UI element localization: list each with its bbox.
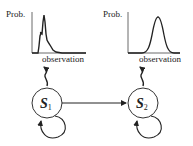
plot2-xlabel: observation — [139, 54, 181, 64]
emission-plot-s1: Prob. observation — [6, 9, 86, 64]
plot1-curve — [32, 15, 86, 53]
plot1-ylabel: Prob. — [6, 9, 25, 19]
diagram-svg: Prob. observation Prob. observation S1 — [0, 0, 193, 146]
state-s2: S2 — [128, 88, 161, 138]
plot2-ylabel: Prob. — [103, 9, 122, 19]
plot1-marker — [40, 32, 42, 34]
self-loop-s1 — [41, 116, 66, 138]
emission-arrow-s1 — [44, 67, 47, 86]
emission-arrow-s2 — [140, 67, 143, 86]
hmm-diagram: Prob. observation Prob. observation S1 — [0, 0, 193, 146]
plot1-xlabel: observation — [42, 54, 84, 64]
state-s1: S1 — [32, 88, 65, 138]
self-loop-s2 — [137, 116, 162, 138]
emission-plot-s2: Prob. observation — [103, 9, 181, 64]
plot2-curve — [128, 17, 180, 53]
